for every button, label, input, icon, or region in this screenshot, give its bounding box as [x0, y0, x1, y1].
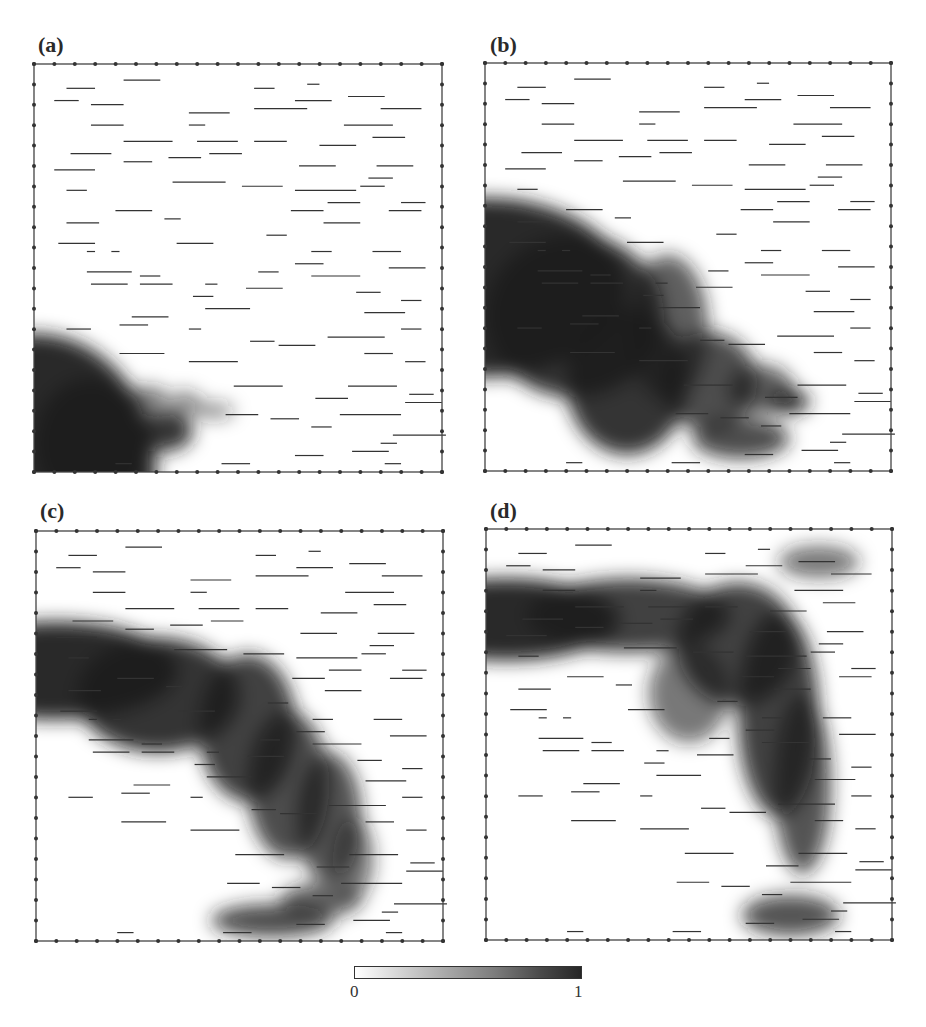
colorbar-min-label: 0: [350, 982, 359, 1002]
panel-d: [486, 529, 892, 940]
panel-c: [36, 531, 443, 941]
panel-label-b: (b): [490, 32, 517, 58]
damage-field-plot: [486, 529, 892, 940]
damage-field-plot: [36, 531, 443, 941]
damage-field-plot: [485, 63, 891, 471]
panel-label-d: (d): [490, 498, 517, 524]
panel-b: [485, 63, 891, 471]
damage-field-plot: [34, 64, 442, 472]
panel-a: [34, 64, 442, 472]
panel-label-c: (c): [40, 498, 64, 524]
panel-label-a: (a): [38, 32, 64, 58]
colorbar-max-label: 1: [574, 982, 583, 1002]
colorbar: [354, 966, 582, 979]
